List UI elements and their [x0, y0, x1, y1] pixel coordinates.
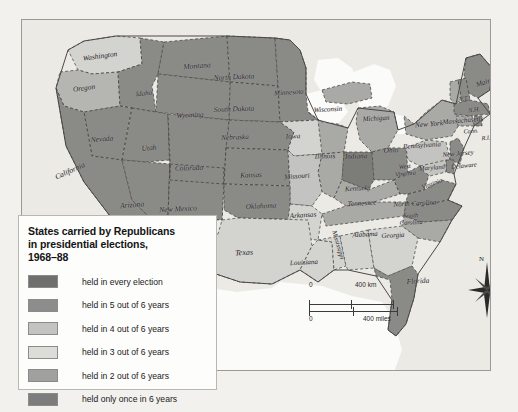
compass-star-icon	[465, 256, 491, 322]
map-page: WashingtonOregonIdahoMontanaNorth Dakota…	[0, 0, 518, 412]
state-oregon	[56, 70, 120, 112]
compass-rose: N	[465, 256, 491, 322]
legend-swatch	[28, 322, 58, 335]
legend-entry-label: held only once in 6 years	[82, 394, 177, 404]
legend-entry-label: held in every election	[82, 277, 163, 287]
legend-entry-label: held in 2 out of 6 years	[82, 371, 169, 381]
legend-entry-label: held in 4 out of 6 years	[82, 324, 169, 334]
legend-entry-list: held in every electionheld in 5 out of 6…	[28, 272, 216, 410]
legend-entry: held in 5 out of 6 years	[28, 295, 216, 315]
legend-swatch	[28, 275, 58, 288]
state-delaware	[446, 160, 454, 174]
state-connecticut	[456, 116, 474, 126]
state-missouri	[288, 150, 322, 206]
legend-title-line-2: in presidential elections,	[28, 238, 210, 251]
legend-swatch	[28, 393, 58, 406]
scale-bar: 0 400 km 0 400 miles	[309, 285, 409, 324]
legend-entry: held only once in 6 years	[28, 389, 216, 409]
legend-entry-label: held in 3 out of 6 years	[82, 347, 169, 357]
state-kansas	[224, 148, 290, 186]
scale-miles-zero: 0	[309, 315, 313, 322]
map-legend: States carried by Republicans in preside…	[18, 215, 217, 390]
scale-miles-label: 400 miles	[363, 315, 391, 322]
state-north-dakota	[227, 36, 278, 86]
legend-swatch	[28, 369, 58, 382]
legend-entry: held in 4 out of 6 years	[28, 319, 216, 339]
legend-entry: held in every election	[28, 272, 216, 292]
legend-swatch	[28, 299, 58, 312]
scale-km-label: 400 km	[355, 281, 376, 288]
scale-km-zero: 0	[309, 281, 313, 288]
legend-title: States carried by Republicans in preside…	[28, 225, 210, 265]
legend-entry-label: held in 5 out of 6 years	[82, 300, 169, 310]
legend-entry: held in 2 out of 6 years	[28, 366, 216, 386]
legend-entry: held in 3 out of 6 years	[28, 342, 216, 362]
state-south-dakota	[229, 82, 280, 122]
legend-swatch	[28, 346, 58, 359]
state-wyoming	[156, 74, 230, 120]
legend-title-line-3: 1968–88	[28, 251, 210, 264]
compass-north-label: N	[479, 255, 484, 263]
legend-title-line-1: States carried by Republicans	[28, 225, 210, 238]
